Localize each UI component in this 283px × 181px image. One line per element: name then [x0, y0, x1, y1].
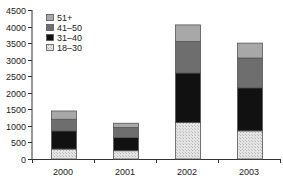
legend-swatch — [47, 25, 54, 31]
bar-segment-31–40 — [238, 88, 263, 131]
bar-segment-51+ — [176, 25, 201, 42]
bars — [52, 25, 263, 159]
bar-segment-41–50 — [114, 128, 139, 138]
bar-segment-41–50 — [176, 41, 201, 72]
bar-segment-51+ — [114, 123, 139, 127]
x-axis: 2000200120022003 — [28, 159, 281, 177]
y-tick-label: 2500 — [6, 72, 26, 82]
legend-label: 41–50 — [57, 23, 82, 33]
y-tick-label: 4500 — [6, 6, 26, 16]
x-tick-label: 2003 — [239, 167, 259, 177]
bar-segment-31–40 — [176, 73, 201, 123]
bar-2003 — [238, 43, 263, 159]
bar-2000 — [52, 111, 77, 159]
bar-segment-31–40 — [114, 137, 139, 150]
bar-segment-31–40 — [52, 131, 77, 149]
bar-segment-51+ — [238, 43, 263, 58]
y-tick-label: 4000 — [6, 23, 26, 33]
legend: 51+41–5031–4018–30 — [47, 13, 83, 53]
bar-segment-18–30 — [114, 151, 139, 159]
y-tick-label: 2000 — [6, 89, 26, 99]
y-tick-label: 3500 — [6, 39, 26, 49]
y-tick-label: 3000 — [6, 56, 26, 66]
bar-segment-41–50 — [52, 119, 77, 131]
y-tick-label: 0 — [21, 155, 26, 165]
legend-swatch — [47, 45, 54, 51]
legend-label: 31–40 — [57, 33, 82, 43]
x-tick-label: 2002 — [177, 167, 197, 177]
x-tick-label: 2000 — [53, 167, 73, 177]
bar-2002 — [176, 25, 201, 159]
bar-segment-18–30 — [176, 123, 201, 159]
bar-segment-41–50 — [238, 58, 263, 88]
legend-label: 18–30 — [57, 43, 82, 53]
y-tick-label: 500 — [11, 138, 26, 148]
legend-swatch — [47, 35, 54, 41]
bar-segment-51+ — [52, 111, 77, 119]
stacked-bar-chart: 050010001500200025003000350040004500 200… — [0, 0, 283, 181]
legend-swatch — [47, 15, 54, 21]
legend-label: 51+ — [57, 13, 72, 23]
y-tick-label: 1500 — [6, 105, 26, 115]
y-tick-label: 1000 — [6, 122, 26, 132]
bar-2001 — [114, 123, 139, 159]
bar-segment-18–30 — [52, 149, 77, 159]
y-axis: 050010001500200025003000350040004500 — [6, 6, 32, 165]
bar-segment-18–30 — [238, 131, 263, 159]
x-tick-label: 2001 — [115, 167, 135, 177]
